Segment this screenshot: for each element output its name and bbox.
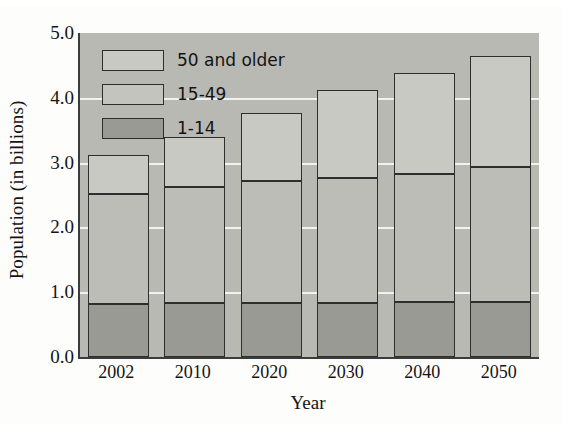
bar-segment-2050-1-14 xyxy=(470,302,531,357)
y-axis-tick-labels: 0.01.02.03.04.05.0 xyxy=(26,0,74,424)
x-axis-title: Year xyxy=(78,392,538,414)
bar-2002 xyxy=(88,155,149,357)
legend-item-child: 1-14 xyxy=(102,113,332,143)
legend-swatch-adult xyxy=(102,84,164,105)
chart-figure: Population (in billions) 0.01.02.03.04.0… xyxy=(0,0,563,424)
bar-2010 xyxy=(164,137,225,357)
bar-segment-2040-1-14 xyxy=(394,302,455,357)
x-tick-label-2010: 2010 xyxy=(175,362,211,383)
x-tick-label-2050: 2050 xyxy=(481,362,517,383)
legend-label-child: 1-14 xyxy=(177,118,216,138)
legend-label-older: 50 and older xyxy=(177,50,285,70)
bar-segment-2050-50-and-older xyxy=(470,56,531,167)
legend-label-adult: 15-49 xyxy=(177,84,226,104)
y-tick-label: 0.0 xyxy=(30,346,74,368)
x-tick-label-2030: 2030 xyxy=(328,362,364,383)
x-axis-tick-labels: 200220102020203020402050 xyxy=(78,362,537,388)
bar-segment-2040-15-49 xyxy=(394,174,455,302)
bar-segment-2030-1-14 xyxy=(317,303,378,357)
bar-segment-2010-1-14 xyxy=(164,303,225,357)
plot-area: 50 and older15-491-14 xyxy=(78,33,539,359)
y-tick-label: 1.0 xyxy=(30,281,74,303)
y-tick-label: 3.0 xyxy=(30,152,74,174)
bar-segment-2010-15-49 xyxy=(164,187,225,303)
bar-2020 xyxy=(241,113,302,357)
x-tick-label-2040: 2040 xyxy=(404,362,440,383)
bar-segment-2002-15-49 xyxy=(88,194,149,304)
y-tick-label: 4.0 xyxy=(30,87,74,109)
bar-segment-2020-15-49 xyxy=(241,181,302,303)
legend-swatch-child xyxy=(102,118,164,139)
y-tick-label: 2.0 xyxy=(30,216,74,238)
bar-segment-2020-1-14 xyxy=(241,303,302,357)
bar-segment-2002-50-and-older xyxy=(88,155,149,194)
bar-2040 xyxy=(394,73,455,357)
bar-segment-2040-50-and-older xyxy=(394,73,455,174)
bar-segment-2030-15-49 xyxy=(317,178,378,304)
x-tick-label-2002: 2002 xyxy=(98,362,134,383)
cropped-title-area xyxy=(0,0,563,6)
legend-item-adult: 15-49 xyxy=(102,79,332,109)
chart-legend: 50 and older15-491-14 xyxy=(102,45,332,147)
legend-swatch-older xyxy=(102,50,164,71)
x-tick-label-2020: 2020 xyxy=(251,362,287,383)
bar-2050 xyxy=(470,56,531,357)
bar-segment-2050-15-49 xyxy=(470,167,531,302)
y-tick-label: 5.0 xyxy=(30,22,74,44)
legend-item-older: 50 and older xyxy=(102,45,332,75)
y-axis-title: Population (in billions) xyxy=(6,101,28,280)
bar-segment-2002-1-14 xyxy=(88,304,149,357)
